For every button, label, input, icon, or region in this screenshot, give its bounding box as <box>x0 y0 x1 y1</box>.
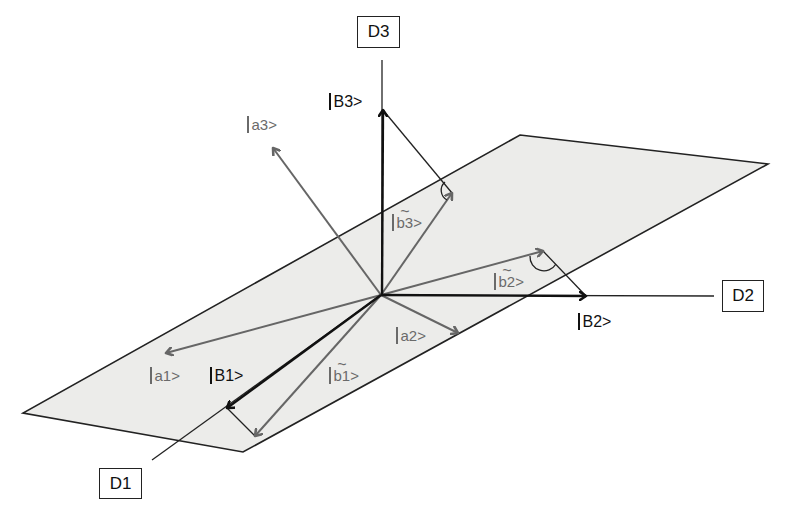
projection-plane <box>23 135 768 452</box>
ket-bar <box>396 327 398 344</box>
ket-bar <box>247 116 249 133</box>
label-a1-text: a1> <box>155 367 180 384</box>
label-b3-tilde: ~b3> <box>392 214 422 231</box>
ket-bar <box>494 273 496 290</box>
label-a2-text: a2> <box>401 327 426 344</box>
ket-close: > <box>515 273 524 290</box>
vector-B3 <box>382 110 383 295</box>
label-B2-text: B2> <box>583 313 612 330</box>
tilde-mark: ~ <box>499 263 516 279</box>
axis-label-d1: D1 <box>99 468 142 499</box>
vector-B2 <box>381 295 586 296</box>
tilde-mark: ~ <box>397 204 414 220</box>
tilde-mark: ~ <box>334 357 351 373</box>
label-B2: B2> <box>578 313 611 330</box>
ket-bar <box>210 367 212 384</box>
label-B1-text: B1> <box>215 367 244 384</box>
label-B3-text: B3> <box>334 93 363 110</box>
label-b2-tilde: ~b2> <box>494 273 524 290</box>
ket-bar <box>392 214 394 231</box>
ket-bar <box>329 367 331 384</box>
label-a1: a1> <box>150 367 180 384</box>
label-B1: B1> <box>210 367 243 384</box>
label-a3: a3> <box>247 116 277 133</box>
ket-close: > <box>413 214 422 231</box>
projection-line-b3 <box>383 110 452 193</box>
ket-close: > <box>350 367 359 384</box>
label-a3-text: a3> <box>252 116 277 133</box>
label-a2: a2> <box>396 327 426 344</box>
label-B3: B3> <box>329 93 362 110</box>
axis-label-d2: D2 <box>722 280 764 312</box>
ket-bar <box>150 367 152 384</box>
ket-bar <box>329 93 331 110</box>
label-b1-tilde: ~b1> <box>329 367 359 384</box>
diagram-canvas <box>0 0 790 523</box>
ket-bar <box>578 313 580 330</box>
axis-label-d3: D3 <box>357 16 400 48</box>
